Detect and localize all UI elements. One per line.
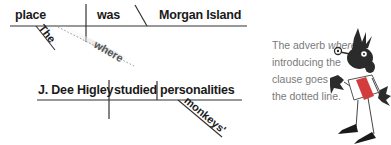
word-personalities: personalities [160,83,235,97]
word-j-dee-higley: J. Dee Higley [38,83,113,97]
word-place: place [15,8,46,22]
caption-prefix: The adverb [272,39,328,51]
word-studied: studied [114,83,157,97]
cartoon-character-icon [328,20,391,145]
complement-slant-line [135,5,147,26]
word-was: was [97,8,120,22]
word-morgan-island: Morgan Island [159,8,241,22]
